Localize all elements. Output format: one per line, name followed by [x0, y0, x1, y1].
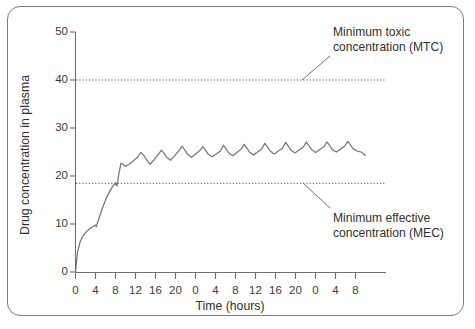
x-tick-label-9: 12 — [249, 285, 262, 297]
mec-annotation-line-1: Minimum effective — [333, 211, 444, 226]
chart-root: 50 40 30 20 10 0 0 4 8 12 16 20 0 4 8 12… — [0, 0, 475, 329]
y-tick-label-0: 0 — [46, 266, 68, 278]
drug-concentration-curve — [76, 141, 366, 272]
mec-annotation-line-2: concentration (MEC) — [333, 226, 444, 241]
x-axis-group — [76, 273, 387, 280]
y-tick-label-40: 40 — [46, 74, 68, 86]
x-tick-label-5: 20 — [169, 285, 182, 297]
y-axis-group — [70, 32, 76, 272]
y-tick-label-50: 50 — [46, 26, 68, 38]
mtc-annotation: Minimum toxic concentration (MTC) — [333, 25, 443, 56]
x-tick-label-11: 20 — [289, 285, 302, 297]
x-tick-label-12: 0 — [312, 285, 318, 297]
mtc-annotation-line-2: concentration (MTC) — [333, 40, 443, 55]
x-tick-marks — [76, 273, 356, 280]
mtc-annotation-line-1: Minimum toxic — [333, 25, 443, 40]
x-tick-label-8: 8 — [232, 285, 238, 297]
x-tick-label-0: 0 — [72, 285, 78, 297]
y-tick-label-30: 30 — [46, 122, 68, 134]
y-axis-title: Drug concentration in plasma — [18, 75, 32, 235]
y-tick-label-10: 10 — [46, 218, 68, 230]
x-tick-label-2: 8 — [112, 285, 118, 297]
mtc-leader-line — [302, 56, 330, 80]
x-tick-label-6: 0 — [192, 285, 198, 297]
y-tick-label-20: 20 — [46, 170, 68, 182]
x-tick-label-14: 8 — [352, 285, 358, 297]
x-tick-label-10: 16 — [269, 285, 282, 297]
x-tick-label-7: 4 — [212, 285, 218, 297]
x-tick-label-3: 12 — [129, 285, 142, 297]
mec-annotation: Minimum effective concentration (MEC) — [333, 211, 444, 242]
x-tick-label-1: 4 — [92, 285, 98, 297]
mec-leader-line — [303, 183, 330, 208]
x-tick-label-4: 16 — [149, 285, 162, 297]
x-axis-title: Time (hours) — [195, 299, 264, 313]
x-tick-label-13: 4 — [332, 285, 338, 297]
